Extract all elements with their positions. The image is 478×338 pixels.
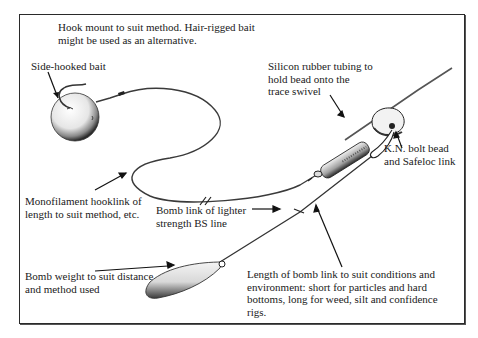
silicon-tubing-label: Silicon rubber tubing to hold bead onto …: [268, 60, 373, 98]
bomb-link-length-label: Length of bomb link to suit conditions a…: [247, 268, 438, 318]
bait-ball: [51, 93, 99, 141]
side-hooked-bait-label: Side-hooked bait: [31, 60, 106, 73]
silicon-tubing: [318, 140, 371, 180]
kn-bolt-bead: [372, 108, 404, 136]
monofilament-label: Monofilament hooklink of length to suit …: [25, 195, 142, 220]
trace-swivel: [308, 171, 322, 181]
hooklink-line: [96, 88, 318, 201]
hook-mount-label: Hook mount to suit method. Hair-rigged b…: [58, 21, 255, 46]
bomb-weight-label: Bomb weight to suit distance and method …: [25, 270, 153, 295]
bomb-link-label: Bomb link of lighter strength BS line: [156, 204, 246, 229]
kn-bolt-bead-label: K.N. bolt bead and Safeloc link: [384, 142, 455, 167]
